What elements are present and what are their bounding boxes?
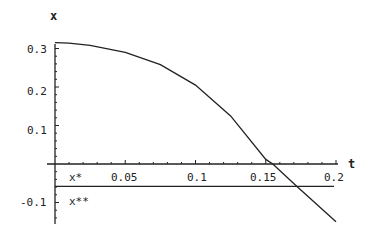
y-tick-label: 0.3 (27, 43, 47, 56)
y-axis-title: x (50, 9, 57, 23)
x-star-star-label: x** (69, 195, 89, 208)
chart: x t 0.05 0.1 0.15 0.2 0.3 0.2 0.1 -0.1 x… (0, 0, 371, 243)
x-axis-title: t (348, 157, 355, 171)
y-tick-label: 0.1 (27, 124, 47, 137)
x-tick-label: 0.05 (111, 171, 138, 184)
x-tick-label: 0.15 (250, 171, 277, 184)
y-tick-label: 0.2 (27, 85, 47, 98)
x-tick-label: 0.1 (187, 171, 207, 184)
x-star-label: x* (69, 171, 82, 184)
y-tick-label: -0.1 (20, 196, 47, 209)
axis-ticks (55, 49, 336, 218)
x-tick-label: 0.2 (324, 171, 344, 184)
data-curve (55, 43, 336, 222)
